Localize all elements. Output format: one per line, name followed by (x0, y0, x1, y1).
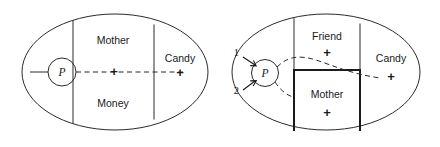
right-diagram: P 1 2 Friend Mother Candy + + + (0, 0, 440, 147)
figure-container: P Mother Money Candy + + P (0, 0, 440, 147)
right-mother-label: Mother (311, 88, 344, 100)
right-mother-plus: + (323, 105, 331, 120)
right-arrow-label-1: 1 (234, 47, 239, 58)
right-friend-label: Friend (312, 30, 342, 42)
right-dashed-curve-mother (275, 82, 293, 97)
right-arrow-label-2: 2 (234, 85, 239, 96)
right-friend-plus: + (323, 45, 331, 60)
right-p-label: P (260, 67, 268, 79)
right-candy-plus: + (387, 69, 395, 84)
right-candy-label: Candy (376, 52, 407, 64)
right-dashed-curve-candy (277, 57, 380, 78)
